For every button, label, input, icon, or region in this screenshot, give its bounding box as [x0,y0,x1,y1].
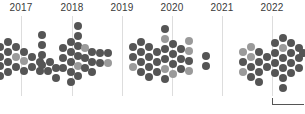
data-point [12,43,20,51]
data-point [295,64,303,72]
data-point [59,54,67,62]
data-point [12,63,20,71]
data-point [153,68,161,76]
data-point [20,48,28,56]
gridline-2019 [122,16,123,96]
data-point [185,67,193,75]
data-point [271,49,279,57]
data-point [12,53,20,61]
data-point [129,63,137,71]
data-point [28,53,36,61]
data-point [271,69,279,77]
data-point [271,59,279,67]
data-point [38,51,46,59]
data-point [145,73,153,81]
year-label-2020: 2020 [160,2,183,13]
data-point [59,44,67,52]
data-point [255,68,263,76]
data-point [161,45,169,53]
data-point [279,64,287,72]
data-point [287,39,295,47]
data-point [20,57,28,65]
data-point [255,58,263,66]
data-point [239,48,247,56]
data-point [4,68,12,76]
data-point [287,69,295,77]
data-point [169,50,177,58]
data-point [161,55,169,63]
data-point [202,62,210,70]
data-point [161,65,169,73]
data-point [161,75,169,83]
data-point [88,68,96,76]
data-point [74,72,82,80]
gridline-2017 [21,16,22,96]
data-point [88,48,96,56]
data-point [129,43,137,51]
scale-bar-line [272,104,304,105]
data-point [299,49,305,57]
year-label-2021: 2021 [210,2,233,13]
data-point [239,68,247,76]
beeswarm-dot-chart: 201720182019202020212022 [0,0,305,114]
data-point [137,38,145,46]
data-point [247,53,255,61]
data-point [161,35,169,43]
data-point [4,58,12,66]
data-point [104,59,112,67]
data-point [287,59,295,67]
data-point [177,45,185,53]
data-point [74,22,82,30]
data-point [239,58,247,66]
year-label-2022: 2022 [260,2,283,13]
data-point [185,57,193,65]
data-point [153,58,161,66]
data-point [38,31,46,39]
data-point [67,78,75,86]
data-point [169,70,177,78]
data-point [153,48,161,56]
data-point [38,41,46,49]
data-point [185,37,193,45]
gridline-2021 [222,16,223,96]
data-point [169,60,177,68]
data-point [255,78,263,86]
year-label-2019: 2019 [110,2,133,13]
data-point [263,53,271,61]
data-point [247,63,255,71]
data-point [96,49,104,57]
data-point [129,53,137,61]
data-point [145,53,153,61]
data-point [177,55,185,63]
year-label-2017: 2017 [9,2,32,13]
data-point [202,52,210,60]
data-point [96,59,104,67]
data-point [137,58,145,66]
data-point [279,84,287,92]
data-point [255,48,263,56]
data-point [145,63,153,71]
data-point [88,58,96,66]
data-point [44,67,52,75]
data-point [287,49,295,57]
data-point [279,54,287,62]
data-point [279,34,287,42]
data-point [20,67,28,75]
data-point [247,73,255,81]
data-point [279,74,287,82]
data-point [59,64,67,72]
data-point [137,48,145,56]
data-point [177,65,185,73]
data-point [52,74,60,82]
data-point [279,44,287,52]
data-point [137,68,145,76]
year-label-2018: 2018 [60,2,83,13]
data-point [263,63,271,71]
data-point [169,40,177,48]
data-point [74,32,82,40]
data-point [4,48,12,56]
data-point [271,39,279,47]
data-point [161,25,169,33]
data-point [4,38,12,46]
data-point [247,43,255,51]
